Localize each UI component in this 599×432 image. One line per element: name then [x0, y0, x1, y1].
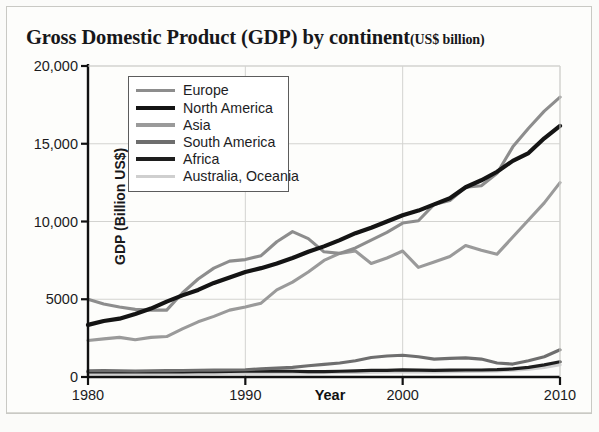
chart-canvas [0, 0, 599, 432]
x-axis-tick-label: 1980 [72, 387, 104, 403]
legend-item: South America [136, 134, 282, 151]
series-line-asia [88, 183, 560, 341]
plot-area: 0500010,00015,00020,0001980199020002010G… [0, 0, 599, 432]
legend-item-label: South America [183, 135, 275, 149]
chart-legend: EuropeNorth AmericaAsiaSouth AmericaAfri… [128, 76, 289, 192]
legend-swatch-line-icon [136, 106, 175, 110]
x-axis-tick-label: 2010 [544, 387, 576, 403]
screenshot-root: Gross Domestic Product (GDP) by continen… [0, 0, 599, 432]
legend-item-label: Europe [183, 83, 229, 97]
legend-item: Africa [136, 151, 282, 168]
y-axis-tick-label: 5000 [6, 291, 78, 307]
legend-item: Australia, Oceania [136, 168, 282, 185]
y-axis-tick-label: 20,000 [6, 58, 78, 74]
y-axis-tick-label: 10,000 [6, 214, 78, 230]
x-axis-tick-label: 1990 [229, 387, 261, 403]
y-axis-tick-label: 0 [6, 369, 78, 385]
legend-item-label: Africa [183, 152, 219, 166]
legend-swatch-line-icon [136, 175, 175, 178]
x-axis-tick-label: 2000 [387, 387, 419, 403]
legend-swatch-line-icon [136, 89, 175, 92]
legend-item-label: Australia, Oceania [183, 169, 299, 183]
legend-swatch-line-icon [136, 140, 175, 143]
y-axis-title: GDP (Billion US$) [112, 148, 128, 265]
legend-swatch-line-icon [136, 123, 175, 126]
series-line-south-america [88, 350, 560, 371]
legend-item-label: North America [183, 101, 273, 115]
legend-swatch-line-icon [136, 157, 175, 161]
legend-item: North America [136, 99, 282, 116]
legend-item-label: Asia [183, 118, 211, 132]
y-axis-tick-label: 15,000 [6, 136, 78, 152]
legend-item: Europe [136, 82, 282, 99]
legend-item: Asia [136, 116, 282, 133]
x-axis-title: Year [315, 387, 346, 403]
